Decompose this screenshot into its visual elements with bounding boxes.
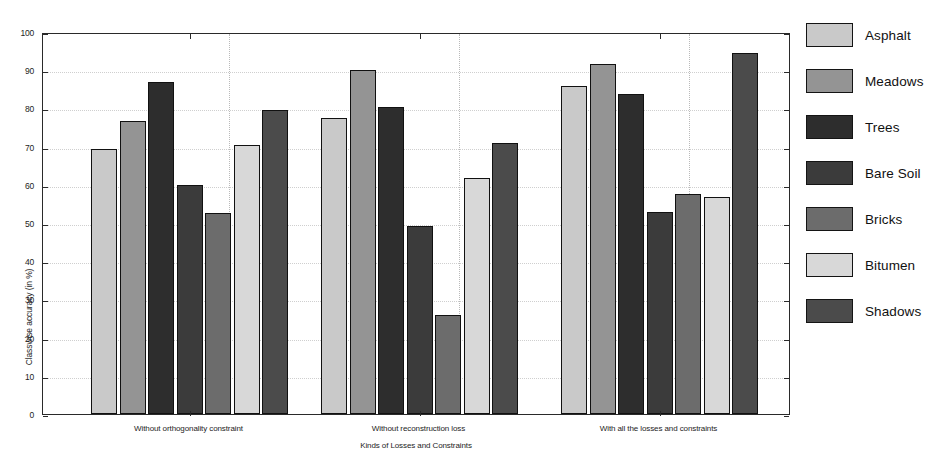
bar-shadows-group-1 bbox=[262, 110, 288, 414]
bar-bare-soil-group-1 bbox=[177, 185, 203, 414]
y-tick-label-90: 90 bbox=[8, 66, 34, 76]
bar-bitumen-group-3 bbox=[704, 197, 730, 414]
y-tick-mark-right bbox=[784, 34, 789, 35]
x-tick-label-group-2: Without reconstruction loss bbox=[372, 424, 465, 433]
y-tick-mark-right bbox=[784, 340, 789, 341]
legend-swatch-icon bbox=[806, 299, 853, 323]
bar-meadows-group-3 bbox=[590, 64, 616, 414]
bar-asphalt-group-1 bbox=[91, 149, 117, 414]
x-axis-title: Kinds of Losses and Constraints bbox=[360, 441, 472, 450]
bar-asphalt-group-2 bbox=[321, 118, 347, 414]
legend-label: Meadows bbox=[865, 74, 923, 89]
y-tick-mark bbox=[43, 340, 48, 341]
legend-swatch-icon bbox=[806, 23, 853, 47]
bar-trees-group-2 bbox=[378, 107, 404, 414]
bar-meadows-group-1 bbox=[120, 121, 146, 414]
bar-bare-soil-group-3 bbox=[647, 212, 673, 414]
bar-bare-soil-group-2 bbox=[407, 226, 433, 414]
legend-swatch-icon bbox=[806, 161, 853, 185]
x-tick-mark-top bbox=[190, 34, 191, 39]
bar-shadows-group-2 bbox=[492, 143, 518, 414]
legend-item-bricks[interactable]: Bricks bbox=[806, 206, 902, 232]
y-tick-mark bbox=[43, 416, 48, 417]
y-tick-mark-right bbox=[784, 110, 789, 111]
y-tick-label-50: 50 bbox=[8, 219, 34, 229]
legend-item-trees[interactable]: Trees bbox=[806, 114, 900, 140]
y-tick-mark bbox=[43, 301, 48, 302]
y-tick-label-60: 60 bbox=[8, 181, 34, 191]
x-tick-mark bbox=[660, 411, 661, 416]
bar-bricks-group-1 bbox=[205, 213, 231, 414]
legend-swatch-icon bbox=[806, 115, 853, 139]
x-tick-mark bbox=[190, 411, 191, 416]
legend-label: Trees bbox=[865, 120, 900, 135]
y-tick-mark bbox=[43, 263, 48, 264]
legend-swatch-icon bbox=[806, 69, 853, 93]
y-tick-mark bbox=[43, 72, 48, 73]
y-tick-mark bbox=[43, 149, 48, 150]
legend-item-shadows[interactable]: Shadows bbox=[806, 298, 921, 324]
bar-trees-group-3 bbox=[618, 94, 644, 414]
y-tick-label-70: 70 bbox=[8, 143, 34, 153]
x-tick-label-group-1: Without orthogonality constraint bbox=[134, 424, 243, 433]
x-tick-label-group-3: With all the losses and constraints bbox=[600, 424, 717, 433]
x-tick-mark bbox=[420, 411, 421, 416]
legend-label: Bitumen bbox=[865, 258, 915, 273]
bar-meadows-group-2 bbox=[350, 70, 376, 414]
legend-item-meadows[interactable]: Meadows bbox=[806, 68, 923, 94]
gridline-horizontal bbox=[43, 72, 789, 73]
plot-area bbox=[42, 33, 790, 415]
legend-label: Bare Soil bbox=[865, 166, 921, 181]
legend-item-bare-soil[interactable]: Bare Soil bbox=[806, 160, 921, 186]
bar-bricks-group-3 bbox=[675, 194, 701, 414]
bar-bricks-group-2 bbox=[435, 315, 461, 414]
y-tick-mark-right bbox=[784, 263, 789, 264]
y-tick-label-100: 100 bbox=[8, 28, 34, 38]
bar-bitumen-group-2 bbox=[464, 178, 490, 414]
legend-label: Asphalt bbox=[865, 28, 911, 43]
y-tick-mark bbox=[43, 225, 48, 226]
legend-item-asphalt[interactable]: Asphalt bbox=[806, 22, 911, 48]
bar-asphalt-group-3 bbox=[561, 86, 587, 414]
legend-swatch-icon bbox=[806, 207, 853, 231]
y-tick-mark-right bbox=[784, 72, 789, 73]
legend-label: Shadows bbox=[865, 304, 921, 319]
y-tick-label-0: 0 bbox=[8, 410, 34, 420]
y-tick-mark-right bbox=[784, 225, 789, 226]
bar-bitumen-group-1 bbox=[234, 145, 260, 414]
y-tick-mark bbox=[43, 378, 48, 379]
y-tick-mark bbox=[43, 110, 48, 111]
legend-item-bitumen[interactable]: Bitumen bbox=[806, 252, 915, 278]
y-tick-mark-right bbox=[784, 416, 789, 417]
y-tick-mark bbox=[43, 34, 48, 35]
legend-label: Bricks bbox=[865, 212, 902, 227]
y-axis-title: Classwise accuracy (in %) bbox=[24, 242, 34, 392]
y-tick-mark-right bbox=[784, 187, 789, 188]
y-tick-mark bbox=[43, 187, 48, 188]
legend-swatch-icon bbox=[806, 253, 853, 277]
bar-shadows-group-3 bbox=[732, 53, 758, 414]
y-tick-mark-right bbox=[784, 378, 789, 379]
y-tick-mark-right bbox=[784, 149, 789, 150]
x-tick-mark-top bbox=[660, 34, 661, 39]
x-tick-mark-top bbox=[420, 34, 421, 39]
y-tick-mark-right bbox=[784, 301, 789, 302]
y-tick-label-80: 80 bbox=[8, 104, 34, 114]
bar-chart-figure: 0102030405060708090100 Classwise accurac… bbox=[0, 0, 945, 465]
bar-trees-group-1 bbox=[148, 82, 174, 414]
